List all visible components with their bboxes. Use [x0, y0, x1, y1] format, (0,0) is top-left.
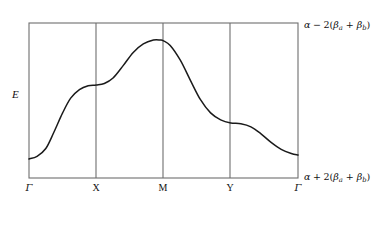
- x-tick-label-gamma-left: Γ: [17, 182, 41, 193]
- energy-label-bottom: α+2(βa + βb): [304, 171, 370, 182]
- energy-top-sub-b: b: [362, 24, 366, 32]
- energy-bottom-plus: +: [343, 171, 357, 182]
- energy-bottom-operator: +: [310, 171, 323, 182]
- energy-top-sub-a: a: [339, 24, 343, 32]
- energy-top-close: ): [367, 19, 371, 30]
- energy-label-top: α−2(βa + βb): [304, 19, 370, 30]
- energy-bottom-close: ): [367, 171, 371, 182]
- x-tick-label-x: X: [84, 182, 108, 193]
- x-tick-label-y: Y: [218, 182, 242, 193]
- energy-top-operator: −: [310, 19, 323, 30]
- energy-bottom-coefficient: 2(: [323, 171, 333, 182]
- x-tick-label-m: M: [151, 182, 175, 193]
- energy-top-beta-a: β: [333, 19, 339, 30]
- energy-bottom-sub-a: a: [339, 176, 343, 184]
- energy-bottom-sub-b: b: [362, 176, 366, 184]
- energy-top-plus: +: [343, 19, 357, 30]
- x-tick-label-gamma-right: Γ: [286, 182, 310, 193]
- y-axis-label: E: [12, 88, 19, 100]
- energy-top-coefficient: 2(: [323, 19, 333, 30]
- band-structure-figure: E Γ X M Y Γ α−2(βa + βb) α+2(βa + βb): [0, 0, 380, 225]
- plot-canvas: [0, 0, 380, 225]
- energy-bottom-beta-a: β: [333, 171, 339, 182]
